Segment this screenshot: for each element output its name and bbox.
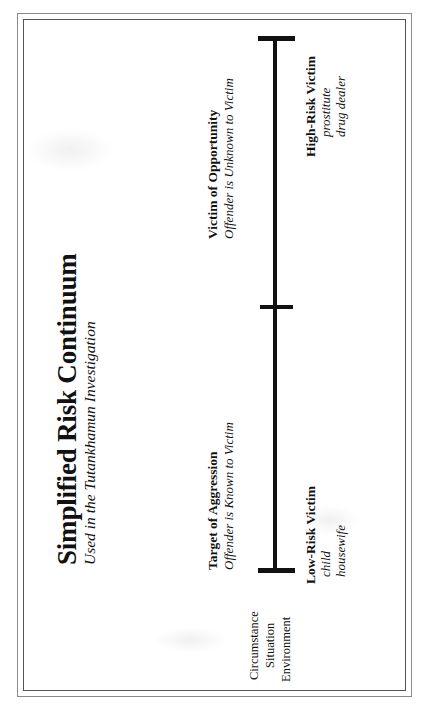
figure-page: Simplified Risk Continuum Used in the Tu…	[0, 0, 427, 712]
band-description-victim-of-opportunity: Offender is Unknown to Victim	[222, 78, 237, 239]
endpoint-example-low-risk-2: housewife	[334, 525, 349, 577]
endpoint-example-low-risk-1: child	[319, 551, 334, 577]
band-heading-target-of-aggression: Target of Aggression	[205, 451, 220, 570]
axis-side-label-circumstance: Circumstance	[247, 611, 261, 680]
page-title: Simplified Risk Continuum	[52, 253, 82, 565]
band-heading-victim-of-opportunity: Victim of Opportunity	[205, 110, 220, 239]
axis-side-label-environment: Environment	[279, 617, 293, 682]
endpoint-example-high-risk-2: drug dealer	[334, 76, 349, 137]
band-description-target-of-aggression: Offender is Known to Victim	[222, 422, 237, 570]
page-subtitle: Used in the Tutankhamun Investigation	[81, 321, 98, 565]
axis-cap-low-risk	[258, 568, 295, 573]
axis-tick-midpoint	[260, 305, 293, 309]
axis-cap-high-risk	[258, 36, 295, 41]
endpoint-label-low-risk-victim: Low-Risk Victim	[303, 486, 318, 584]
endpoint-label-high-risk-victim: High-Risk Victim	[303, 56, 318, 157]
axis-side-label-situation: Situation	[263, 623, 277, 668]
endpoint-example-high-risk-1: prostitute	[319, 88, 334, 137]
